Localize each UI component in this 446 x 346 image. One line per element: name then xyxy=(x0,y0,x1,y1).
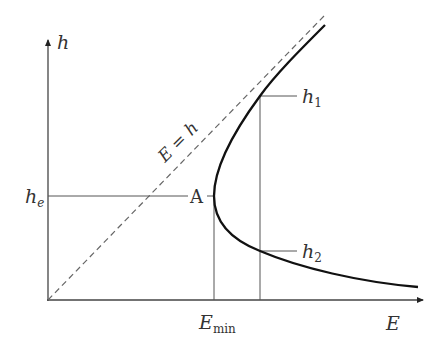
h1-label: h1 xyxy=(302,85,322,110)
diagram-canvas: h E E = h A he h1 h2 Emin xyxy=(0,0,446,346)
e-min-label-sub: min xyxy=(213,322,236,336)
h2-label: h2 xyxy=(302,240,322,265)
h-e-label-sub: e xyxy=(37,196,44,210)
solution-curve xyxy=(214,25,418,287)
h-e-label-main: h xyxy=(25,185,37,207)
point-a-label: A xyxy=(189,186,204,207)
x-axis-label: E xyxy=(385,312,400,334)
h1-label-sub: 1 xyxy=(314,96,322,110)
diagonal-line-label: E = h xyxy=(153,117,202,166)
h-e-label: he xyxy=(25,185,44,210)
h2-label-sub: 2 xyxy=(314,251,322,265)
y-axis-label: h xyxy=(57,31,69,53)
h2-label-main: h xyxy=(302,240,314,262)
diagonal-dashed-line xyxy=(48,16,324,300)
e-min-label: Emin xyxy=(198,311,236,336)
h1-label-main: h xyxy=(302,85,314,107)
e-min-label-main: E xyxy=(198,311,213,333)
diagram-svg: h E E = h A he h1 h2 Emin xyxy=(0,0,446,346)
